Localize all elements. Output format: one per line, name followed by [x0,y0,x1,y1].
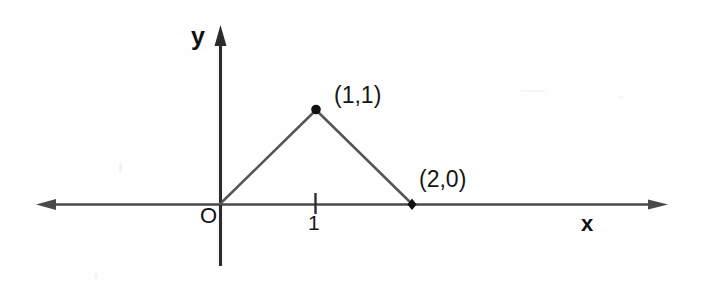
y-axis-top-arrowhead [215,25,227,46]
x-axis-label: x [581,213,593,235]
pulse-falling-edge [316,110,412,204]
scan-artifact-speck [618,96,624,98]
pulse-rising-edge [220,110,316,204]
y-axis-label: y [191,24,205,49]
coordinate-plot-svg [0,0,705,282]
graph-figure: y x O 1 (1,1) (2,0) [0,0,705,282]
x-axis-right-arrowhead [648,200,668,210]
scan-artifact-speck [119,163,122,172]
root-point-label: (2,0) [419,168,466,191]
origin-label: O [200,205,217,227]
x-tick-label-1: 1 [308,212,320,233]
scan-artifact-speck [94,272,98,279]
scan-artifact-speck [520,90,546,92]
x-axis-left-arrowhead [36,199,56,210]
apex-point-label: (1,1) [334,84,381,107]
apex-point-marker [311,105,321,115]
